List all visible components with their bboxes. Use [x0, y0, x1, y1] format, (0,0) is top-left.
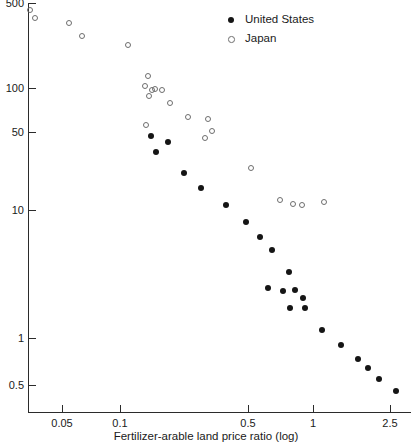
data-point-united-states: [365, 365, 371, 371]
y-tick-mark: [29, 385, 36, 386]
y-tick-label: 1: [18, 333, 24, 344]
x-tick-mark: [120, 405, 121, 412]
y-tick-label: 50: [12, 127, 24, 138]
data-point-japan: [290, 201, 297, 208]
data-point-united-states: [286, 269, 292, 275]
data-point-japan: [248, 165, 255, 172]
data-point-japan: [299, 202, 306, 209]
data-point-japan: [66, 20, 73, 27]
data-point-united-states: [292, 287, 298, 293]
x-tick-mark: [313, 405, 314, 412]
data-point-japan: [209, 128, 216, 135]
open-circle-icon: [228, 36, 235, 43]
data-point-japan: [125, 42, 132, 49]
data-point-united-states: [338, 342, 344, 348]
y-tick-label: 100: [6, 83, 24, 94]
data-point-united-states: [265, 285, 271, 291]
data-point-united-states: [223, 202, 229, 208]
y-tick-mark: [29, 210, 36, 211]
y-axis-line: [28, 3, 29, 412]
data-point-united-states: [148, 133, 154, 139]
y-tick-mark: [29, 3, 36, 4]
data-point-united-states: [376, 376, 382, 382]
data-point-japan: [27, 7, 34, 14]
data-point-united-states: [319, 327, 325, 333]
data-point-united-states: [165, 139, 171, 145]
x-axis-title: Fertilizer-arable land price ratio (log): [0, 430, 412, 443]
data-point-united-states: [280, 288, 286, 294]
x-tick-label: 2.5: [382, 418, 397, 429]
data-point-japan: [79, 33, 86, 40]
data-point-japan: [205, 116, 212, 123]
y-tick-label: 500: [6, 0, 24, 9]
x-tick-mark: [62, 405, 63, 412]
y-tick-mark: [29, 132, 36, 133]
data-point-united-states: [393, 388, 399, 394]
data-point-united-states: [153, 149, 159, 155]
data-point-united-states: [243, 219, 249, 225]
x-tick-label: 0.05: [51, 418, 72, 429]
data-point-united-states: [257, 234, 263, 240]
data-point-united-states: [269, 247, 275, 253]
data-point-japan: [142, 83, 149, 90]
x-axis-line: [28, 412, 411, 413]
data-point-japan: [321, 199, 328, 206]
x-tick-label: 1: [310, 418, 316, 429]
data-point-japan: [152, 86, 159, 93]
y-tick-label: 0.5: [9, 380, 24, 391]
scatter-chart: 500100501010.5 0.050.10.512.5 United Sta…: [0, 0, 412, 445]
x-tick-label: 0.5: [240, 418, 255, 429]
data-point-united-states: [300, 295, 306, 301]
data-point-japan: [277, 197, 284, 204]
data-point-united-states: [302, 305, 308, 311]
y-tick-mark: [29, 88, 36, 89]
data-point-japan: [146, 93, 153, 100]
legend-label-japan: Japan: [245, 31, 276, 45]
legend-label-united-states: United States: [245, 12, 314, 26]
data-point-japan: [145, 73, 152, 80]
data-point-united-states: [355, 356, 361, 362]
data-point-japan: [185, 114, 192, 121]
x-tick-mark: [248, 405, 249, 412]
x-tick-mark: [390, 405, 391, 412]
data-point-japan: [143, 122, 150, 129]
filled-circle-icon: [228, 17, 234, 23]
data-point-united-states: [287, 305, 293, 311]
y-tick-label: 10: [12, 205, 24, 216]
data-point-japan: [32, 15, 39, 22]
x-tick-label: 0.1: [112, 418, 127, 429]
data-point-japan: [159, 87, 166, 94]
data-point-japan: [167, 100, 174, 107]
data-point-united-states: [198, 185, 204, 191]
data-point-japan: [202, 135, 209, 142]
y-tick-mark: [29, 338, 36, 339]
data-point-united-states: [181, 170, 187, 176]
